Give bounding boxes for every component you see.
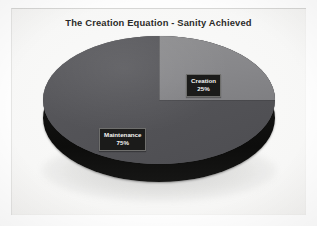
page-title: The Creation Equation - Sanity Achieved: [11, 17, 306, 28]
data-label-creation-percent: 25%: [191, 85, 216, 93]
data-label-maintenance-name: Maintenance: [104, 131, 141, 138]
slice-divider-vertical: [159, 36, 160, 100]
data-label-creation: Creation 25%: [186, 74, 221, 97]
pie-top-face: [43, 36, 275, 164]
slide-photo: The Creation Equation - Sanity Achieved …: [0, 0, 317, 226]
slice-divider-horizontal: [159, 100, 275, 101]
data-label-maintenance: Maintenance 75%: [99, 128, 146, 151]
data-label-creation-name: Creation: [191, 77, 216, 84]
data-label-maintenance-percent: 75%: [104, 139, 141, 147]
slide-surface: The Creation Equation - Sanity Achieved …: [11, 8, 306, 215]
pie-chart: Creation 25% Maintenance 75%: [25, 30, 293, 210]
